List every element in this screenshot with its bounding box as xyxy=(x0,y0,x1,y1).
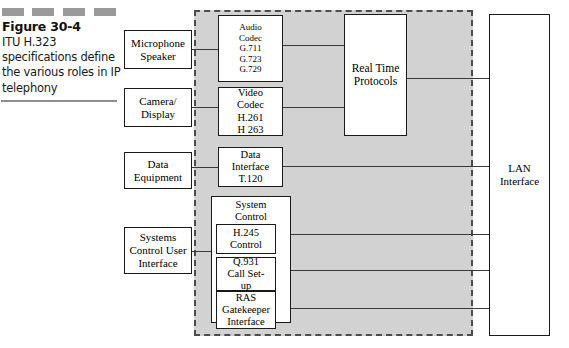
connector-rtp-to-lan xyxy=(406,78,490,79)
box-q931-call-setup[interactable]: Q.931 Call Set- up xyxy=(216,257,276,291)
caption-rule xyxy=(1,100,117,102)
box-line: Camera/ xyxy=(139,95,176,108)
box-line: Interface xyxy=(227,316,264,328)
box-line: Video xyxy=(238,87,263,99)
box-line: LAN xyxy=(508,162,531,175)
connector-q931-to-lan xyxy=(276,270,490,271)
box-line: Systems xyxy=(140,231,177,244)
connector-ras-to-lan xyxy=(276,308,490,309)
box-ras-gatekeeper-interface[interactable]: RAS Gatekeeper Interface xyxy=(216,291,276,329)
box-line: Control xyxy=(235,211,267,223)
figure-canvas: Figure 30-4 ITU H.323 specifications def… xyxy=(0,0,569,348)
box-line: Microphone xyxy=(131,37,185,50)
box-microphone-speaker[interactable]: Microphone Speaker xyxy=(124,30,192,69)
box-line: Data xyxy=(241,149,261,161)
decorative-dash-icon xyxy=(94,8,116,16)
decorative-dash-icon xyxy=(2,8,24,16)
box-line: T.120 xyxy=(238,173,262,185)
box-line: Call Set- xyxy=(227,268,264,280)
box-line: Codec xyxy=(239,33,262,43)
box-line: Equipment xyxy=(134,171,182,184)
box-data-interface[interactable]: Data Interface T.120 xyxy=(218,147,283,187)
figure-number: Figure 30-4 xyxy=(2,19,130,34)
box-systems-control-user-interface[interactable]: Systems Control User Interface xyxy=(124,227,192,274)
box-line: Data xyxy=(148,158,169,171)
box-line: RAS xyxy=(236,292,256,304)
decorative-dash-icon xyxy=(63,8,85,16)
box-line: Control xyxy=(230,239,262,251)
box-line: Interface xyxy=(138,257,177,270)
connector-camera-to-video xyxy=(192,107,220,108)
box-line: H.261 xyxy=(238,112,264,124)
figure-caption: ITU H.323 specifications define the vari… xyxy=(2,35,128,96)
connector-video-to-rtp xyxy=(283,107,345,108)
box-camera-display[interactable]: Camera/ Display xyxy=(124,88,192,127)
box-line: Interface xyxy=(232,161,269,173)
box-line: Q.931 xyxy=(233,256,259,268)
box-line: Interface xyxy=(500,175,539,188)
connector-mic-to-audio xyxy=(192,49,220,50)
connector-datainterface-to-lan xyxy=(283,166,490,167)
box-line: Speaker xyxy=(140,50,175,63)
decorative-dashes xyxy=(2,8,124,17)
box-video-codec[interactable]: Video Codec H.261 H 263 xyxy=(218,87,283,136)
box-line: H.245 xyxy=(233,227,259,239)
box-real-time-protocols[interactable]: Real Time Protocols xyxy=(344,14,407,136)
box-line: Control User xyxy=(129,244,186,257)
box-line: H 263 xyxy=(238,124,264,136)
box-line: Protocols xyxy=(354,75,397,88)
box-line: Display xyxy=(141,108,175,121)
box-audio-codec[interactable]: Audio Codec G.711 G.723 G.729 xyxy=(218,15,283,82)
box-h245-control[interactable]: H.245 Control xyxy=(216,224,276,254)
box-lan-interface[interactable]: LAN Interface xyxy=(489,14,550,336)
box-data-equipment[interactable]: Data Equipment xyxy=(124,152,192,189)
box-line: G.729 xyxy=(239,64,261,74)
box-line: System xyxy=(236,199,267,211)
box-line: G.723 xyxy=(239,54,261,64)
connector-data-to-datainterface xyxy=(192,167,220,168)
box-line: Gatekeeper xyxy=(222,304,270,316)
box-line: Real Time xyxy=(352,62,400,75)
box-line: G.711 xyxy=(240,43,262,53)
connector-audio-to-rtp xyxy=(283,45,345,46)
connector-h245-to-lan xyxy=(276,234,490,235)
decorative-dash-icon xyxy=(32,8,54,16)
box-line: Codec xyxy=(237,99,264,111)
box-line: Audio xyxy=(239,22,262,32)
